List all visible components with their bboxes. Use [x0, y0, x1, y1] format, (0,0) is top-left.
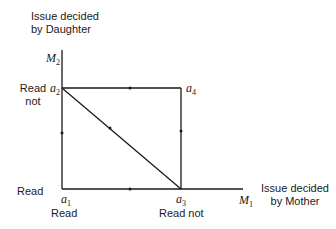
x-axis-title: Issue decided by Mother [255, 182, 335, 208]
mark-diagonal [109, 127, 112, 130]
x-axis-title-line1: Issue decided [255, 182, 335, 195]
y-axis-title-line2: by Daughter [31, 23, 99, 36]
point-a4-label: a4 [186, 82, 196, 99]
x-label-read-not: Read not [159, 207, 204, 220]
y-label-read: Read [17, 185, 43, 198]
point-a2-label: a2 [50, 82, 60, 99]
mark-right-edge [180, 130, 183, 133]
y-axis-title-line1: Issue decided [31, 10, 99, 23]
x-axis-title-line2: by Mother [255, 195, 335, 208]
y-axis-title: Issue decided by Daughter [31, 10, 99, 36]
x-axis-label: M1 [239, 194, 253, 211]
x-label-read: Read [51, 207, 77, 220]
edge-a2-a3-diagonal [62, 88, 181, 189]
mark-left-edge [61, 132, 64, 135]
mark-bottom-edge [129, 188, 132, 191]
y-axis-label: M2 [46, 52, 60, 69]
mark-top-edge [129, 87, 132, 90]
y-label-read-not: Read not [16, 82, 50, 108]
